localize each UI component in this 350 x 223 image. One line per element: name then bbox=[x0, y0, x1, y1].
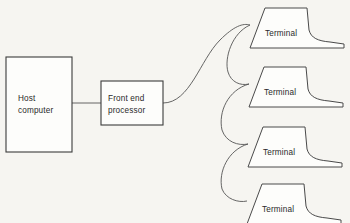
terminal-3[interactable]: Terminal bbox=[248, 127, 342, 167]
front-end-processor-label-line2: processor bbox=[108, 106, 145, 115]
front-end-processor-box[interactable] bbox=[101, 81, 163, 125]
link-terminal-2-to-3 bbox=[221, 84, 249, 144]
terminal-2[interactable]: Terminal bbox=[249, 67, 343, 107]
diagram-canvas: Host computer Front end processor Termin… bbox=[0, 0, 350, 223]
terminal-4[interactable]: Terminal bbox=[247, 184, 341, 223]
network-diagram: Host computer Front end processor Termin… bbox=[0, 0, 350, 223]
terminal-2-label: Terminal bbox=[264, 88, 296, 97]
terminal-1-label: Terminal bbox=[265, 29, 297, 38]
terminal-icon bbox=[247, 184, 341, 223]
host-computer-label-line2: computer bbox=[18, 106, 53, 115]
terminal-icon bbox=[249, 67, 343, 107]
terminal-3-label: Terminal bbox=[263, 148, 295, 157]
host-computer-box[interactable] bbox=[6, 57, 72, 152]
terminal-1[interactable]: Terminal bbox=[250, 8, 344, 48]
front-end-processor-label-line1: Front end bbox=[108, 94, 145, 103]
link-fep-to-terminal-1 bbox=[163, 24, 250, 103]
link-terminal-3-to-4 bbox=[221, 144, 248, 202]
terminal-icon bbox=[250, 8, 344, 48]
link-terminal-1-to-2 bbox=[227, 25, 250, 85]
terminal-icon bbox=[248, 127, 342, 167]
terminal-4-label: Terminal bbox=[262, 205, 294, 214]
host-computer-label-line1: Host bbox=[18, 94, 36, 103]
